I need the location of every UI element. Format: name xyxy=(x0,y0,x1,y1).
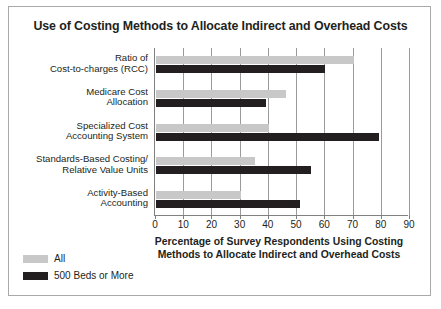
category-label: Ratio ofCost-to-charges (RCC) xyxy=(9,53,148,74)
chart-figure: Use of Costing Methods to Allocate Indir… xyxy=(8,6,431,296)
bar xyxy=(156,124,269,132)
legend-swatch-all xyxy=(23,255,48,263)
category-label: Activity-BasedAccounting xyxy=(9,188,148,209)
x-tick-label: 60 xyxy=(309,219,339,230)
chart-legend: All 500 Beds or More xyxy=(23,251,134,285)
bar xyxy=(156,200,300,208)
legend-item-500-beds-or-more: 500 Beds or More xyxy=(23,268,134,283)
x-tick-label: 70 xyxy=(338,219,368,230)
bar xyxy=(156,56,354,64)
category-label-line: Accounting System xyxy=(9,131,148,142)
category-label-line: Relative Value Units xyxy=(9,165,148,176)
category-label-line: Allocation xyxy=(9,97,148,108)
category-label-line: Cost-to-charges (RCC) xyxy=(9,64,148,75)
x-tick-label: 50 xyxy=(281,219,311,230)
x-tick-label: 80 xyxy=(366,219,396,230)
bar xyxy=(156,133,379,141)
x-tick-label: 10 xyxy=(168,219,198,230)
category-label: Standards-Based Costing/Relative Value U… xyxy=(9,154,148,175)
x-tick-label: 90 xyxy=(394,219,424,230)
bar xyxy=(156,90,286,98)
x-gridline xyxy=(353,48,354,215)
legend-swatch-500-beds-or-more xyxy=(23,272,48,280)
x-axis-title-line2: Methods to Allocate Indirect and Overhea… xyxy=(129,248,429,261)
bar xyxy=(156,191,241,199)
bar xyxy=(156,157,255,165)
category-axis: Ratio ofCost-to-charges (RCC)Medicare Co… xyxy=(9,48,152,216)
x-axis-title-line1: Percentage of Survey Respondents Using C… xyxy=(129,235,429,248)
x-tick-label: 20 xyxy=(196,219,226,230)
plot-area: 0102030405060708090 xyxy=(154,48,408,216)
category-label: Medicare CostAllocation xyxy=(9,87,148,108)
x-tick-label: 0 xyxy=(140,219,170,230)
x-tick-label: 40 xyxy=(253,219,283,230)
bar xyxy=(156,65,325,73)
bar xyxy=(156,99,266,107)
chart-title: Use of Costing Methods to Allocate Indir… xyxy=(9,19,432,33)
x-gridline xyxy=(409,48,410,215)
legend-label-all: All xyxy=(54,253,65,264)
x-axis-title: Percentage of Survey Respondents Using C… xyxy=(129,235,429,261)
category-label-line: Accounting xyxy=(9,198,148,209)
x-tick-label: 30 xyxy=(225,219,255,230)
category-label: Specialized CostAccounting System xyxy=(9,121,148,142)
bar xyxy=(156,166,311,174)
legend-label-500-beds-or-more: 500 Beds or More xyxy=(54,270,134,281)
x-gridline xyxy=(381,48,382,215)
legend-item-all: All xyxy=(23,251,134,266)
